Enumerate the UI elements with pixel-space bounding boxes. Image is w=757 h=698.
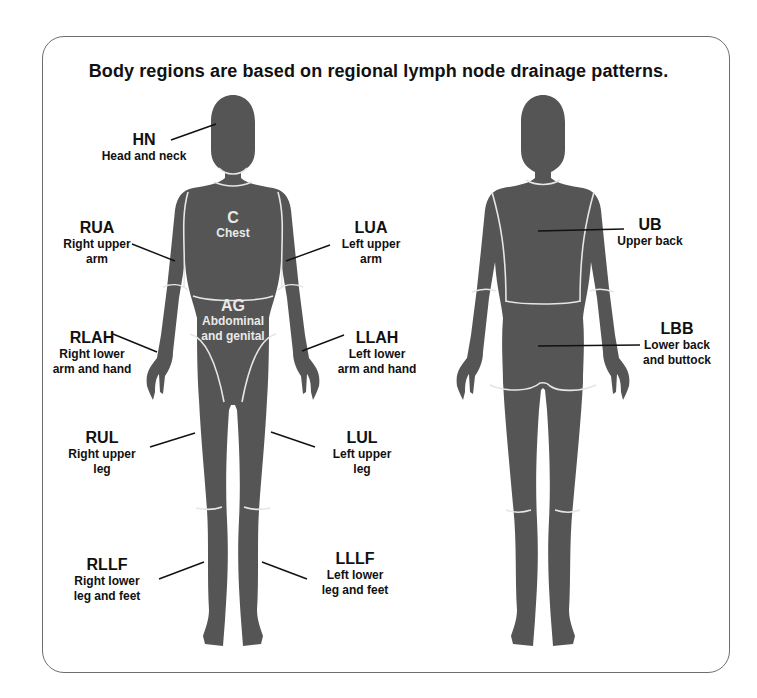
label-lul: LUL Left upper leg (317, 429, 407, 477)
region-desc: Left lower (310, 568, 400, 583)
region-desc: leg (57, 462, 147, 477)
region-desc: Abdominal (183, 314, 283, 329)
region-desc: Head and neck (94, 149, 194, 164)
region-desc: arm (326, 252, 416, 267)
label-ag: AG Abdominal and genital (183, 297, 283, 344)
region-desc: Left lower (327, 347, 427, 362)
back-figure (457, 95, 630, 646)
region-desc: and buttock (632, 353, 722, 368)
region-desc: Upper back (605, 234, 695, 249)
region-desc: Left upper (326, 237, 416, 252)
label-lua: LUA Left upper arm (326, 219, 416, 267)
region-code: RUA (52, 219, 142, 237)
region-desc: and genital (183, 329, 283, 344)
region-desc: leg (317, 462, 407, 477)
region-desc: Chest (193, 226, 273, 241)
region-code: RLLF (62, 556, 152, 574)
front-figure (147, 95, 320, 646)
region-desc: arm (52, 252, 142, 267)
label-rlah: RLAH Right lower arm and hand (42, 329, 142, 377)
region-desc: Lower back (632, 338, 722, 353)
region-code: AG (183, 297, 283, 314)
label-hn: HN Head and neck (94, 131, 194, 164)
region-code: HN (94, 131, 194, 149)
region-desc: Right upper (52, 237, 142, 252)
region-code: RUL (57, 429, 147, 447)
label-llah: LLAH Left lower arm and hand (327, 329, 427, 377)
region-code: LUA (326, 219, 416, 237)
region-desc: Left upper (317, 447, 407, 462)
region-code: LLLF (310, 550, 400, 568)
label-rua: RUA Right upper arm (52, 219, 142, 267)
region-desc: arm and hand (42, 362, 142, 377)
region-desc: leg and feet (62, 589, 152, 604)
region-code: RLAH (42, 329, 142, 347)
label-rul: RUL Right upper leg (57, 429, 147, 477)
region-code: UB (605, 216, 695, 234)
region-desc: arm and hand (327, 362, 427, 377)
region-desc: Right upper (57, 447, 147, 462)
label-lbb: LBB Lower back and buttock (632, 320, 722, 368)
region-desc: Right lower (42, 347, 142, 362)
region-code: LLAH (327, 329, 427, 347)
region-code: LUL (317, 429, 407, 447)
label-ub: UB Upper back (605, 216, 695, 249)
region-desc: Right lower (62, 574, 152, 589)
label-c: C Chest (193, 209, 273, 241)
region-desc: leg and feet (310, 583, 400, 598)
region-code: C (193, 209, 273, 226)
label-lllf: LLLF Left lower leg and feet (310, 550, 400, 598)
label-rllf: RLLF Right lower leg and feet (62, 556, 152, 604)
region-code: LBB (632, 320, 722, 338)
